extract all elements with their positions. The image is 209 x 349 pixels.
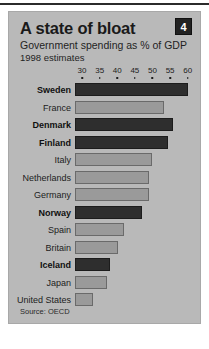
bar-france [75,101,164,114]
bar-row: France [75,100,193,118]
top-rule [0,3,209,5]
bar-label-sweden: Sweden [37,85,71,95]
chart-note: 1998 estimates [20,52,84,63]
bar-label-japan: Japan [46,278,71,288]
bar-germany [75,188,149,201]
bar-label-germany: Germany [34,190,71,200]
bar-label-spain: Spain [48,225,71,235]
bar-row: Netherlands [75,170,193,188]
bar-list: SwedenFranceDenmarkFinlandItalyNetherlan… [75,82,193,314]
bar-united-states [75,293,93,306]
x-tick-mark-45 [134,77,136,79]
x-tick-mark-60 [187,77,189,79]
bar-row: Norway [75,205,193,223]
bar-row: Germany [75,187,193,205]
bar-label-netherlands: Netherlands [22,173,71,183]
bar-row: Denmark [75,117,193,135]
plot-area: 30354045505560 SwedenFranceDenmarkFinlan… [75,66,193,316]
x-tick-label-30: 30 [78,66,87,75]
bar-row: Italy [75,152,193,170]
x-tick-mark-35 [99,77,101,79]
bar-label-britain: Britain [45,243,71,253]
bar-label-norway: Norway [38,208,71,218]
bar-label-italy: Italy [54,155,71,165]
bar-row: United States [75,292,193,310]
bar-label-united-states: United States [17,295,71,305]
bar-label-denmark: Denmark [32,120,71,130]
bar-italy [75,153,152,166]
bar-sweden [75,83,188,96]
bar-finland [75,136,168,149]
bar-britain [75,241,118,254]
x-tick-mark-55 [169,77,171,79]
bar-row: Iceland [75,257,193,275]
x-axis: 30354045505560 [75,66,193,82]
bar-netherlands [75,171,149,184]
x-tick-label-40: 40 [113,66,122,75]
x-tick-label-55: 55 [166,66,175,75]
bar-label-france: France [43,103,71,113]
x-tick-mark-30 [81,77,83,79]
bar-row: Sweden [75,82,193,100]
bar-label-iceland: Iceland [40,260,71,270]
chart-card: A state of bloat 4 Government spending a… [9,12,200,323]
bar-japan [75,276,107,289]
x-tick-label-45: 45 [130,66,139,75]
bar-row: Spain [75,222,193,240]
x-tick-mark-40 [117,77,119,79]
chart-number-badge: 4 [175,18,192,35]
bar-row: Japan [75,275,193,293]
x-tick-mark-50 [152,77,154,79]
bar-denmark [75,118,173,131]
bar-norway [75,206,142,219]
x-tick-label-60: 60 [183,66,192,75]
x-tick-label-35: 35 [95,66,104,75]
bar-label-finland: Finland [39,138,71,148]
bar-row: Britain [75,240,193,258]
bar-row: Finland [75,135,193,153]
bar-spain [75,223,124,236]
page-title: A state of bloat [20,19,135,38]
bar-iceland [75,258,110,271]
chart-subtitle: Government spending as % of GDP [20,39,187,51]
x-tick-label-50: 50 [148,66,157,75]
source-note: Source: OECD [20,307,70,316]
